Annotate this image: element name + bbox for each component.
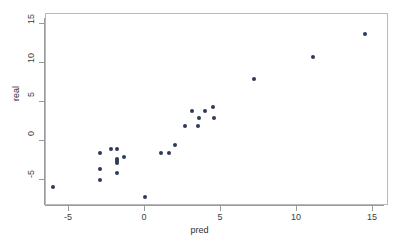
data-point [363,32,367,36]
x-axis-tick-label: -5 [55,212,81,223]
data-point [159,151,163,155]
x-axis-tick [144,206,145,211]
data-point [167,151,171,155]
data-point [212,116,216,120]
scatter-plot-figure: -5051015 -5051015 real pred [0,0,399,245]
y-axis-tick-label: 15 [24,14,38,24]
data-point [115,161,119,165]
data-point [98,151,102,155]
y-axis-line [44,18,45,205]
x-axis-tick-label: 10 [283,212,309,223]
data-point [115,171,119,175]
x-axis-line [45,205,384,206]
data-point [98,167,102,171]
data-point [203,109,207,113]
x-axis-tick [296,206,297,211]
y-axis-label: real [10,86,22,101]
y-axis-tick-label: 0 [24,131,38,136]
plot-panel [45,13,388,205]
y-axis-tick [39,101,44,102]
data-point [196,124,200,128]
y-axis-tick-label: 10 [24,53,38,63]
y-axis-tick [39,23,44,24]
data-point [51,185,55,189]
x-axis-tick [220,206,221,211]
x-axis-tick-label: 15 [359,212,385,223]
y-axis-tick-label: 5 [24,92,38,97]
y-axis-tick [39,62,44,63]
y-axis-tick-label: -5 [24,170,38,178]
data-point [197,116,201,120]
data-point [211,105,215,109]
y-axis-tick [39,140,44,141]
data-point [98,178,102,182]
data-point [252,77,256,81]
data-point [183,124,187,128]
data-point [190,109,194,113]
data-point [115,147,119,151]
x-axis-label: pred [0,225,399,235]
x-axis-tick-label: 0 [131,212,157,223]
data-point [311,55,315,59]
data-point [109,147,113,151]
y-axis-tick [39,179,44,180]
x-axis-tick [68,206,69,211]
plot-data-area [46,14,387,204]
x-axis-tick [372,206,373,211]
data-point [143,195,147,199]
data-point [122,155,126,159]
x-axis-tick-label: 5 [207,212,233,223]
data-point [173,143,177,147]
